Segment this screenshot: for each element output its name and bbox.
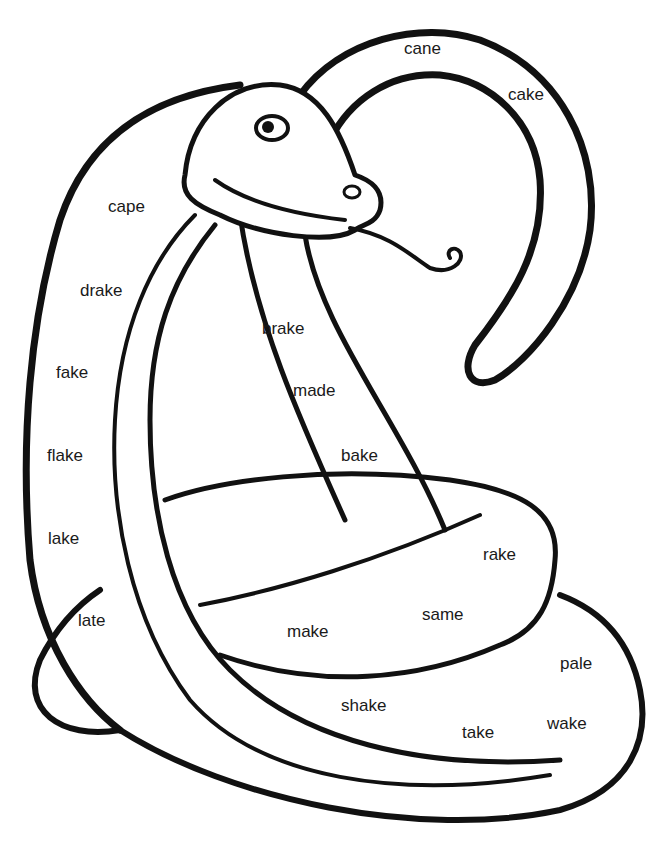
word-take: take: [462, 724, 494, 741]
word-drake: drake: [80, 282, 123, 299]
word-same: same: [422, 606, 464, 623]
word-shake: shake: [341, 697, 386, 714]
snake-coil-upper-edge: [200, 515, 480, 605]
word-cane: cane: [404, 40, 441, 57]
snake-belly-right: [150, 225, 560, 762]
word-flake: flake: [47, 447, 83, 464]
word-lake: lake: [48, 530, 79, 547]
word-cake: cake: [508, 86, 544, 103]
word-fake: fake: [56, 364, 88, 381]
word-make: make: [287, 623, 329, 640]
word-bake: bake: [341, 447, 378, 464]
word-pale: pale: [560, 655, 592, 672]
word-late: late: [78, 612, 105, 629]
word-brake: brake: [262, 320, 305, 337]
word-made: made: [293, 382, 336, 399]
word-wake: wake: [547, 715, 587, 732]
word-cape: cape: [108, 198, 145, 215]
snake-tongue: [350, 228, 461, 270]
snake-coil-middle: [165, 474, 555, 677]
word-rake: rake: [483, 546, 516, 563]
snake-belly-left: [114, 215, 550, 785]
snake-pupil: [262, 121, 274, 133]
